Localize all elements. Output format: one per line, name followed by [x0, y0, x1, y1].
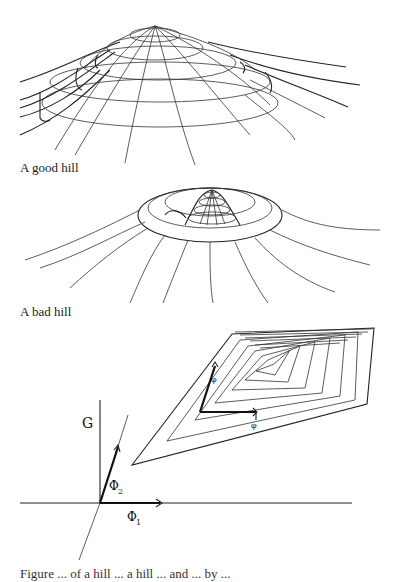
gradient-diagram-drawing: G Φ 2 Φ 1 φ φ: [0, 320, 395, 565]
bottom-caption: Figure ... of a hill ... a hill ... and …: [20, 566, 231, 582]
phi1-subscript: 1: [136, 518, 141, 527]
phi2-subscript: 2: [118, 487, 123, 496]
good-hill-caption: A good hill: [20, 160, 79, 176]
good-hill-figure: A good hill: [0, 0, 395, 170]
axis-label-g: G: [82, 415, 93, 431]
bad-hill-figure: A bad hill: [0, 180, 395, 320]
bad-hill-caption: A bad hill: [20, 304, 71, 320]
good-hill-drawing: [0, 0, 395, 170]
small-phi-label-1: φ: [251, 421, 257, 430]
bad-hill-drawing: [0, 180, 395, 320]
gradient-diagram: G Φ 2 Φ 1 φ φ: [0, 320, 395, 565]
small-phi-label-2: φ: [211, 375, 217, 384]
